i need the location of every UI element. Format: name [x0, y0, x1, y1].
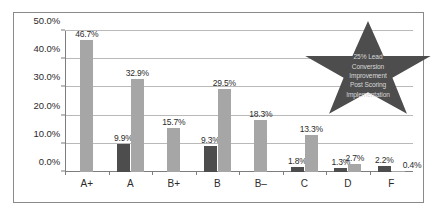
- x-tick-label-a-plus: A+: [80, 178, 93, 189]
- y-tick-label-0: 0.0%: [39, 156, 60, 167]
- bar-light-d[interactable]: 2.7%: [348, 164, 361, 172]
- bar-dark-f[interactable]: 2.2%: [378, 166, 391, 172]
- bar-light-b[interactable]: 29.5%: [218, 89, 231, 172]
- x-tick-label-b-minus: B–: [255, 178, 267, 189]
- bar-dark-b[interactable]: 9.3%: [204, 146, 217, 172]
- x-tick-mark-a-plus: [65, 172, 66, 175]
- bar-value-light-b-plus: 15.7%: [162, 117, 185, 127]
- bar-dark-a[interactable]: 9.9%: [117, 144, 130, 172]
- y-tick-label-50: 50.0%: [34, 15, 60, 26]
- bar-slot-light-b-minus: 18.3%: [254, 31, 267, 172]
- bar-group-a-plus: 46.7% A+: [65, 31, 109, 172]
- x-tick-mark-b: [196, 172, 197, 175]
- bar-slot-light-d: 2.7%: [348, 31, 361, 172]
- bar-slot-light-b: 29.5%: [218, 31, 231, 172]
- x-tick-label-a: A: [127, 178, 134, 189]
- bar-value-light-f: 0.4%: [403, 160, 422, 170]
- y-tick-label-20: 20.0%: [34, 99, 60, 110]
- bar-light-b-plus[interactable]: 15.7%: [167, 128, 180, 172]
- bar-slot-dark-d: 1.3%: [334, 31, 347, 172]
- x-tick-mark-a: [109, 172, 110, 175]
- bar-light-a-plus[interactable]: 46.7%: [80, 40, 93, 172]
- bar-slot-dark-f: 2.2%: [378, 31, 391, 172]
- chart-frame: 50.0% 40.0% 30.0% 20.0% 10.0% 0.0% 46.7%: [13, 12, 424, 203]
- bar-value-light-a-plus: 46.7%: [75, 29, 98, 39]
- bar-value-light-b-minus: 18.3%: [249, 109, 272, 119]
- bar-value-dark-b: 9.3%: [201, 135, 220, 145]
- bar-slot-light-c: 13.3%: [305, 31, 318, 172]
- bar-light-f[interactable]: 0.4%: [392, 171, 405, 172]
- bar-value-dark-c: 1.8%: [288, 156, 307, 166]
- x-tick-mark-c: [283, 172, 284, 175]
- bar-group-c: 1.8% 13.3% C: [283, 31, 327, 172]
- bar-group-b-minus: 18.3% B–: [239, 31, 283, 172]
- x-tick-label-b: B: [214, 178, 221, 189]
- y-tick-label-10: 10.0%: [34, 127, 60, 138]
- bar-value-dark-f: 2.2%: [375, 155, 394, 165]
- bar-group-b-plus: 15.7% B+: [152, 31, 196, 172]
- bar-slot-light-a-plus: 46.7%: [80, 31, 93, 172]
- x-tick-label-d: D: [344, 178, 351, 189]
- bar-group-d: 1.3% 2.7% D: [326, 31, 370, 172]
- bar-group-f: 2.2% 0.4% F: [370, 31, 414, 172]
- x-tick-mark-b-plus: [152, 172, 153, 175]
- bar-value-light-a: 32.9%: [126, 68, 149, 78]
- bar-light-b-minus[interactable]: 18.3%: [254, 120, 267, 172]
- bar-group-b: 9.3% 29.5% B: [196, 31, 240, 172]
- bar-light-c[interactable]: 13.3%: [305, 135, 318, 173]
- bar-slot-light-a: 32.9%: [131, 31, 144, 172]
- bar-slot-dark-c: 1.8%: [291, 31, 304, 172]
- bar-dark-d[interactable]: 1.3%: [334, 168, 347, 172]
- bar-slot-dark-a: 9.9%: [117, 31, 130, 172]
- bar-value-light-c: 13.3%: [300, 124, 323, 134]
- x-tick-label-b-plus: B+: [167, 178, 180, 189]
- y-tick-label-30: 30.0%: [34, 71, 60, 82]
- bar-slot-light-b-plus: 15.7%: [167, 31, 180, 172]
- x-tick-label-c: C: [301, 178, 308, 189]
- bar-dark-c[interactable]: 1.8%: [291, 167, 304, 172]
- y-tick-label-40: 40.0%: [34, 43, 60, 54]
- bar-light-a[interactable]: 32.9%: [131, 79, 144, 172]
- x-tick-mark-f: [370, 172, 371, 175]
- bar-slot-dark-b: 9.3%: [204, 31, 217, 172]
- bar-value-light-d: 2.7%: [345, 153, 364, 163]
- x-tick-label-f: F: [388, 178, 394, 189]
- bar-group-a: 9.9% 32.9% A: [109, 31, 153, 172]
- plot-area: 50.0% 40.0% 30.0% 20.0% 10.0% 0.0% 46.7%: [65, 31, 413, 172]
- x-tick-mark-d: [326, 172, 327, 175]
- bar-value-dark-a: 9.9%: [114, 133, 133, 143]
- bar-value-light-b: 29.5%: [213, 78, 236, 88]
- bar-slot-light-f: 0.4%: [392, 31, 405, 172]
- x-tick-mark-b-minus: [239, 172, 240, 175]
